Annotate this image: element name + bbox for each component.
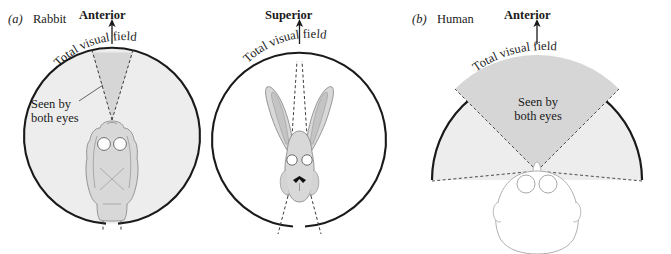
panel-b-title: Human [437, 12, 474, 26]
rabbit-frontal-eye-right [302, 155, 312, 165]
panel-a-rabbit-dorsal [24, 19, 200, 232]
panel-a-identifier: (a) [8, 12, 23, 26]
rabbit-dorsal-eye-left [98, 138, 111, 151]
rabbit-frontal-eye-left [287, 155, 297, 165]
human-anterior-label: Anterior [504, 8, 551, 22]
rabbit-frontal-superior-label: Superior [265, 8, 312, 22]
rabbit-dorsal-binocular-line1: Seen by [31, 97, 79, 111]
rabbit-dorsal-eye-right [114, 138, 127, 151]
human-binocular-label: Seen by both eyes [505, 95, 571, 123]
panel-b-human [432, 19, 642, 254]
panel-a-title: Rabbit [33, 12, 66, 26]
human-skull-outline [496, 171, 579, 254]
panel-b-identifier: (b) [412, 12, 427, 26]
rabbit-dorsal-binocular-line2: both eyes [31, 111, 79, 125]
rabbit-dorsal-anterior-label: Anterior [79, 8, 126, 22]
rabbit-frontal-face [285, 131, 314, 202]
panel-rabbit-frontal [212, 19, 386, 234]
panel-b-identifier-letter: (b) [412, 12, 427, 26]
figure-canvas: Total visual field Total visual field To… [0, 0, 671, 254]
human-binocular-line2: both eyes [505, 109, 571, 123]
panel-a-identifier-letter: (a) [8, 12, 23, 26]
human-eye-right [539, 175, 557, 193]
rabbit-dorsal-binocular-label: Seen by both eyes [31, 97, 79, 125]
figure-visual-fields: Total visual field Total visual field To… [0, 0, 671, 254]
human-binocular-line1: Seen by [505, 95, 571, 109]
human-eye-left [517, 175, 535, 193]
